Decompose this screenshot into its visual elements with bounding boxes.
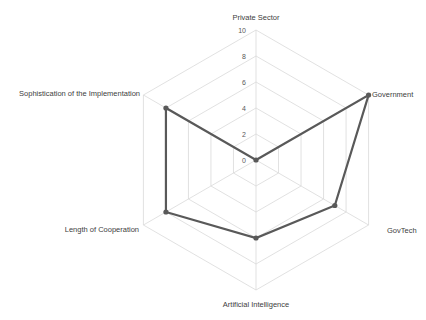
axis-category-labels: Private SectorGovernmentGovTechArtificia… (19, 13, 417, 309)
tick-label: 4 (242, 105, 246, 112)
radial-tick-labels: 0246810 (238, 27, 246, 164)
category-label: Sophistication of the Implementation (19, 89, 140, 98)
data-point-marker (332, 203, 337, 208)
tick-label: 6 (242, 79, 246, 86)
radar-chart: 0246810 Private SectorGovernmentGovTechA… (0, 0, 426, 320)
data-point-marker (163, 105, 168, 110)
data-point-marker (253, 157, 258, 162)
tick-label: 8 (242, 53, 246, 60)
tick-label: 10 (238, 27, 246, 34)
category-label: GovTech (387, 226, 417, 235)
category-label: Length of Cooperation (65, 225, 139, 234)
category-label: Artificial Intelligence (223, 300, 289, 309)
data-point-marker (163, 209, 168, 214)
grid-spoke (143, 160, 256, 225)
data-point-marker (366, 92, 371, 97)
tick-label: 0 (242, 157, 246, 164)
tick-label: 2 (242, 131, 246, 138)
data-point-marker (253, 235, 258, 240)
category-label: Private Sector (232, 13, 280, 22)
category-label: Government (372, 90, 414, 99)
